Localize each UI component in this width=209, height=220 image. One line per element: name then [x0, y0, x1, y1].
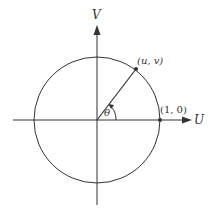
v-axis-label: V	[92, 8, 102, 22]
point-1-0-label: (1, 0)	[160, 104, 187, 115]
point-1-0	[158, 118, 162, 122]
v-axis-arrow-icon	[94, 25, 101, 35]
radius-line	[97, 69, 136, 120]
u-axis-arrow-icon	[182, 117, 192, 124]
unit-circle-diagram: V U (u, v) (1, 0) θ	[0, 0, 209, 220]
point-uv	[134, 67, 138, 71]
angle-theta-label: θ	[104, 107, 110, 118]
point-uv-label: (u, v)	[137, 55, 163, 66]
u-axis-label: U	[194, 113, 205, 127]
